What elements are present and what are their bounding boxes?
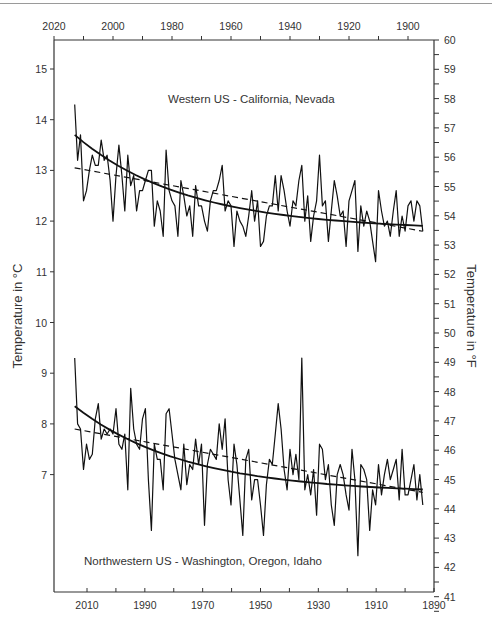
right-tick-label: 59 xyxy=(444,63,456,75)
left-tick-label: 8 xyxy=(41,418,47,430)
right-tick-label: 54 xyxy=(444,210,456,222)
right-tick-label: 49 xyxy=(444,356,456,368)
right-tick-label: 52 xyxy=(444,268,456,280)
right-tick-label: 46 xyxy=(444,444,456,456)
top-tick-label: 1900 xyxy=(396,20,420,32)
linear-trend-0 xyxy=(75,168,423,231)
right-tick-label: 48 xyxy=(444,386,456,398)
bottom-tick-label: 1910 xyxy=(364,599,388,611)
right-tick-label: 44 xyxy=(444,503,456,515)
bottom-tick-label: 1950 xyxy=(249,599,273,611)
left-tick-label: 7 xyxy=(41,469,47,481)
chart-canvas: 2020200019801960194019201900 20101990197… xyxy=(0,0,492,626)
y-axis-label-fahrenheit: Temperature in °F xyxy=(464,264,479,368)
bottom-tick-label: 1890 xyxy=(422,599,446,611)
bottom-tick-label: 1930 xyxy=(307,599,331,611)
bottom-tick-label: 1990 xyxy=(133,599,157,611)
top-divider xyxy=(0,3,492,4)
left-tick-label: 9 xyxy=(41,367,47,379)
left-tick-label: 13 xyxy=(35,164,47,176)
right-tick-label: 60 xyxy=(444,34,456,46)
bottom-tick-label: 1970 xyxy=(191,599,215,611)
right-tick-label: 50 xyxy=(444,327,456,339)
left-tick-label: 14 xyxy=(35,114,47,126)
top-tick-label: 1960 xyxy=(219,20,243,32)
right-tick-label: 47 xyxy=(444,415,456,427)
top-x-axis: 2020200019801960194019201900 xyxy=(42,20,420,40)
right-tick-label: 56 xyxy=(444,151,456,163)
right-tick-label: 55 xyxy=(444,181,456,193)
top-tick-label: 1920 xyxy=(337,20,361,32)
right-tick-label: 41 xyxy=(444,591,456,603)
left-y-axis-celsius: 151413121110987 xyxy=(35,63,54,481)
data-series xyxy=(75,105,423,556)
left-tick-label: 11 xyxy=(36,266,47,278)
top-tick-label: 2020 xyxy=(42,20,66,32)
top-tick-label: 2000 xyxy=(101,20,125,32)
left-tick-label: 15 xyxy=(35,63,47,75)
top-tick-label: 1940 xyxy=(278,20,302,32)
temperature-series-0 xyxy=(75,105,423,262)
right-tick-label: 58 xyxy=(444,93,456,105)
left-tick-label: 12 xyxy=(35,215,47,227)
right-tick-label: 43 xyxy=(444,532,456,544)
right-y-axis-fahrenheit: 6059585756555453525150494847464544434241 xyxy=(434,34,456,611)
bottom-tick-label: 2010 xyxy=(75,599,99,611)
right-tick-label: 57 xyxy=(444,122,456,134)
temperature-chart: 2020200019801960194019201900 20101990197… xyxy=(0,0,492,626)
top-tick-label: 1980 xyxy=(160,20,184,32)
right-tick-label: 51 xyxy=(444,298,456,310)
y-axis-label-celsius: Temperature in °C xyxy=(10,264,25,369)
left-tick-label: 10 xyxy=(35,317,47,329)
right-tick-label: 53 xyxy=(444,239,456,251)
right-tick-label: 42 xyxy=(444,561,456,573)
temperature-series-1 xyxy=(75,358,423,556)
panel-label-western-us: Western US - California, Nevada xyxy=(168,93,335,105)
panel-label-northwestern-us: Northwestern US - Washington, Oregon, Id… xyxy=(84,555,322,567)
right-tick-label: 45 xyxy=(444,474,456,486)
